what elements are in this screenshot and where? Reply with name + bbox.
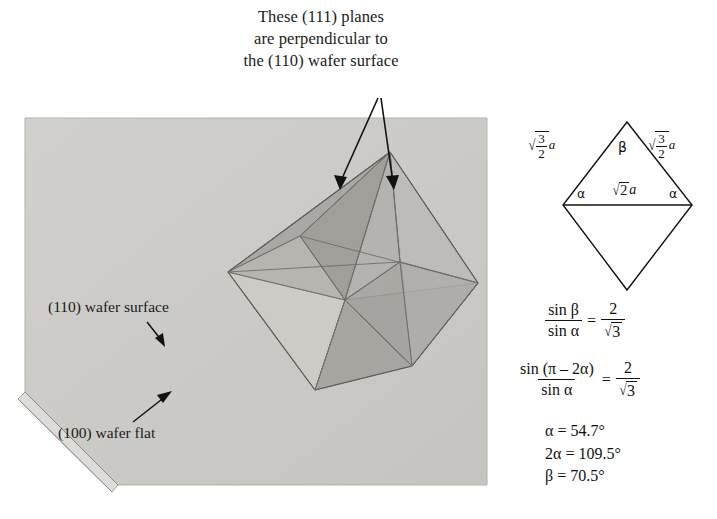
rhombus-edge-label-right: √ 3 2 a [648, 131, 675, 160]
eq2-denominator: sin α [538, 379, 575, 399]
eq2-numerator: sin (π – 2α) [517, 360, 597, 379]
eq1-rhs-radicand: 3 [611, 322, 622, 341]
value-beta: β = 70.5° [545, 465, 621, 488]
wafer-flat-label: (100) wafer flat [58, 424, 155, 442]
eq2-rhs-denominator: √3 [616, 378, 640, 400]
figure-canvas: These (111) planes are perpendicular to … [0, 0, 717, 519]
figure-caption: These (111) planes are perpendicular to … [216, 6, 426, 71]
caption-line-3: the (110) wafer surface [216, 50, 426, 72]
angle-values: α = 54.7° 2α = 109.5° β = 70.5° [545, 420, 621, 488]
rad-var-left: a [549, 137, 556, 152]
rad-num-left: 3 [536, 132, 547, 146]
eq1-numerator: sin β [545, 301, 582, 320]
eq1-denominator: sin α [545, 320, 582, 340]
diag-var: a [629, 182, 636, 197]
value-alpha: α = 54.7° [545, 420, 621, 443]
equation-2: sin (π – 2α) sin α = 2 √3 [517, 359, 640, 401]
eq2-rhs-radicand: 3 [626, 381, 637, 400]
eq2-equals: = [602, 371, 611, 389]
rhombus-angle-alpha-right: α [669, 186, 677, 201]
wafer-surface-label: (110) wafer surface [48, 298, 169, 316]
diag-radicand: 2 [619, 182, 629, 199]
rhombus-angle-alpha-left: α [577, 186, 585, 201]
equation-1: sin β sin α = 2 √3 [545, 300, 625, 342]
eq1-rhs-denominator: √3 [601, 319, 625, 341]
caption-line-2: are perpendicular to [216, 28, 426, 50]
rhombus-edge-label-left: √ 3 2 a [528, 131, 555, 160]
eq1-rhs-numerator: 2 [606, 300, 620, 319]
rad-num-right: 3 [656, 132, 667, 146]
rad-den-left: 2 [536, 146, 547, 161]
rad-den-right: 2 [656, 146, 667, 161]
rhombus-diagonal-label: √2 a [612, 182, 636, 199]
caption-line-1: These (111) planes [216, 6, 426, 28]
value-two-alpha: 2α = 109.5° [545, 443, 621, 466]
eq1-equals: = [587, 312, 596, 330]
rad-var-right: a [669, 137, 676, 152]
rhombus-angle-beta: β [618, 139, 627, 155]
eq2-rhs-numerator: 2 [621, 359, 635, 378]
